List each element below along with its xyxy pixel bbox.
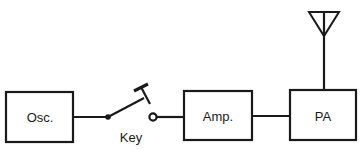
key-lever: [108, 98, 144, 117]
key-contact-icon: [149, 113, 156, 120]
amp-label: Amp.: [203, 109, 233, 124]
key-knob-bar: [134, 84, 148, 91]
transmitter-block-diagram: Osc. Amp. PA Key: [0, 0, 360, 149]
key-label: Key: [120, 130, 143, 145]
key-pivot-dot: [105, 114, 111, 120]
pa-label: PA: [315, 109, 332, 124]
osc-label: Osc.: [27, 110, 54, 125]
key-knob-stem: [141, 87, 150, 104]
